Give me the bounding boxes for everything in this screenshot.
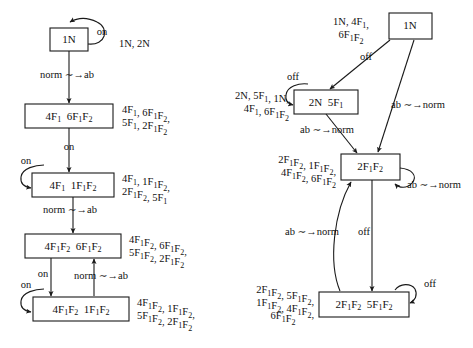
edge-label-norm-ab-l5-l4: norm ∼→ab: [74, 270, 128, 281]
state-node-2f1f2[interactable]: 2F1F2: [341, 154, 400, 180]
edge-label-on-l3: on: [21, 155, 32, 166]
figure-canvas: 1N on 1N, 2N norm ∼→ab 4F1 6F1F2 4F1, 6F…: [0, 0, 473, 348]
state-node-2f1f2-5f1f2[interactable]: 2F1F2 5F1F2: [319, 292, 409, 317]
edge-label-norm-ab-l3-l4: norm ∼→ab: [43, 204, 97, 215]
state-node-4f1f2-6f1f2[interactable]: 4F1F2 6F1F2: [25, 234, 121, 258]
edge-label-on-l1: on: [97, 26, 108, 37]
edge-label-off-r2: off: [287, 71, 300, 82]
edge-label-ab-norm-r4-r3: ab ∼→norm: [285, 226, 339, 237]
state-node-1n-left-label: 1N: [62, 33, 76, 45]
state-node-4f1f2-1f1f2[interactable]: 4F1F2 1F1F2: [33, 297, 129, 321]
edge-r1-r3: [378, 40, 414, 152]
left-state-diagram: 1N on 1N, 2N norm ∼→ab 4F1 6F1F2 4F1, 6F…: [21, 19, 195, 333]
edge-label-on-l5: on: [21, 279, 32, 290]
state-node-1n-right-label: 1N: [403, 19, 417, 31]
state-node-4f1-6f1f2[interactable]: 4F1 6F1F2: [25, 104, 113, 128]
edge-label-off-r1-r2: off: [360, 51, 373, 62]
annotation-r2-line1: 2N, 5F1, 1N,: [235, 90, 289, 104]
edge-label-ab-norm-r1-r3: ab ∼→norm: [391, 99, 445, 110]
annotation-r2-line2: 4F1, 6F1F2: [244, 103, 289, 122]
right-state-diagram: 1N 1N, 4F1, 6F1F2 off ab ∼→norm 2N 5F1 o…: [235, 13, 461, 327]
annotation-l1: 1N, 2N: [119, 38, 150, 49]
edge-label-on-l4-l5: on: [38, 268, 49, 279]
edge-r1-r2: [330, 40, 390, 89]
edge-label-on-l2-l3: on: [64, 141, 75, 152]
state-node-1n-right[interactable]: 1N: [389, 13, 432, 39]
edge-label-off-r3-r4: off: [358, 226, 371, 237]
edge-label-ab-norm-r2-r3: ab ∼→norm: [300, 124, 354, 135]
state-node-1n-left[interactable]: 1N: [50, 28, 88, 51]
state-node-4f1-1f1f2[interactable]: 4F1 1F1F2: [32, 173, 114, 197]
state-diagram-figure: 1N on 1N, 2N norm ∼→ab 4F1 6F1F2 4F1, 6F…: [0, 0, 473, 348]
annotation-r1-line1: 1N, 4F1,: [333, 16, 369, 30]
edge-label-off-r4: off: [424, 278, 437, 289]
state-node-2n-5f1[interactable]: 2N 5F1: [294, 90, 358, 114]
annotation-r1-line2: 6F1F2: [339, 29, 364, 45]
edge-label-ab-norm-r3: ab ∼→norm: [407, 179, 461, 190]
edge-label-norm-ab-l1-l2: norm ∼→ab: [40, 69, 94, 80]
